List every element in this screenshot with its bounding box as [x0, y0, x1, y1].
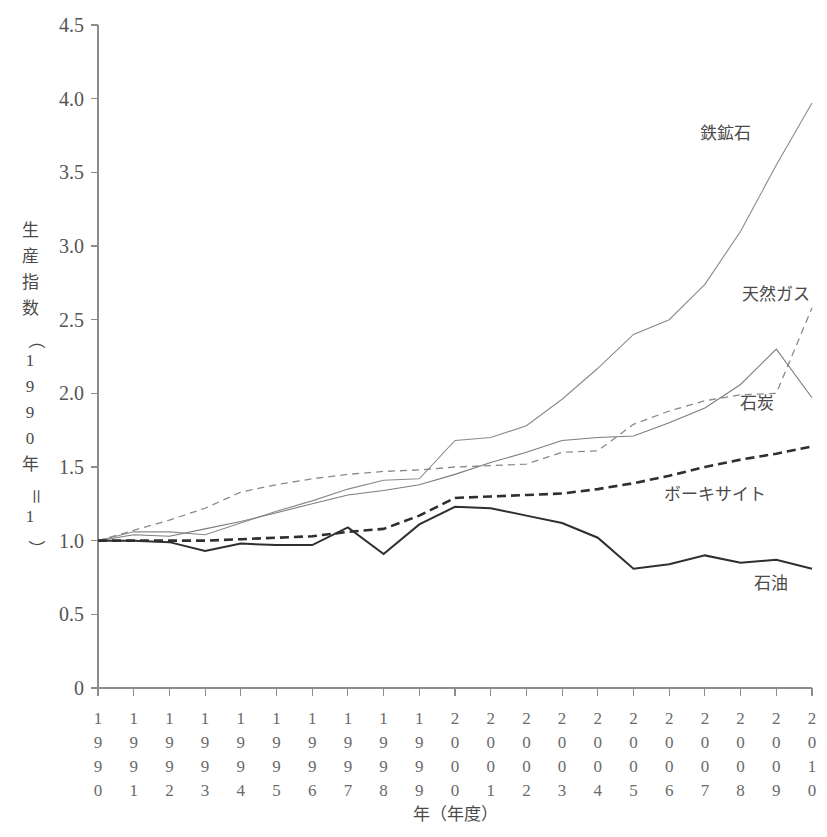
x-tick-label-digit: 0	[486, 757, 495, 776]
x-tick-label-digit: 9	[379, 757, 388, 776]
x-tick-label: 1998	[379, 709, 388, 800]
x-tick-label-digit: 0	[736, 757, 745, 776]
y-tick-label: 2.0	[59, 382, 84, 404]
y-axis-title-char: 年	[22, 455, 39, 474]
chart-figure: 00.51.01.52.02.53.03.54.04.5 19901991199…	[0, 0, 827, 837]
x-tick-label: 2003	[558, 709, 567, 800]
x-tick-label-digit: 2	[594, 709, 603, 728]
x-tick-label-digit: 0	[451, 757, 460, 776]
x-tick-label-digit: 9	[415, 781, 424, 800]
x-tick-label-digit: 9	[272, 757, 281, 776]
x-tick-label-digit: 2	[522, 781, 531, 800]
y-tick-label: 4.0	[59, 88, 84, 110]
y-axis-title-char: 数	[22, 299, 39, 318]
x-tick-label-digit: 9	[308, 757, 317, 776]
x-tick-label-digit: 9	[165, 733, 174, 752]
x-tick-label-digit: 0	[451, 733, 460, 752]
x-axis: 1990199119921993199419951996199719981999…	[94, 688, 817, 800]
x-tick-label-digit: 1	[165, 709, 174, 728]
x-tick-label-digit: 9	[129, 733, 138, 752]
x-tick-label-digit: 0	[629, 733, 638, 752]
y-axis-title-char: 産	[22, 247, 39, 266]
x-tick-label: 2006	[665, 709, 674, 800]
x-tick-label: 2004	[594, 709, 603, 800]
y-axis-title-char: ）	[26, 540, 45, 557]
x-tick-label-digit: 8	[379, 781, 388, 800]
x-tick-label-digit: 1	[415, 709, 424, 728]
series-label-0: 鉄鉱石	[700, 124, 751, 143]
y-tick-label: 3.0	[59, 235, 84, 257]
series-line-4	[98, 507, 812, 569]
x-tick-label-digit: 0	[558, 757, 567, 776]
x-tick-label-digit: 9	[237, 757, 246, 776]
x-tick-label-digit: 9	[344, 733, 353, 752]
x-tick-label-digit: 6	[665, 781, 674, 800]
x-tick-label-digit: 2	[665, 709, 674, 728]
x-tick-label-digit: 2	[165, 781, 174, 800]
x-tick-label: 2000	[451, 709, 460, 800]
x-tick-label: 1992	[165, 709, 174, 800]
y-axis-title-char: 9	[26, 403, 35, 422]
x-tick-label-digit: 9	[237, 733, 246, 752]
x-tick-label-digit: 1	[94, 709, 103, 728]
x-tick-label-digit: 8	[736, 781, 745, 800]
y-tick-label: 0.5	[59, 603, 84, 625]
x-tick-label-digit: 0	[808, 733, 817, 752]
x-tick-label-digit: 0	[94, 781, 103, 800]
x-tick-label-digit: 1	[129, 709, 138, 728]
x-tick-label: 1990	[94, 709, 103, 800]
x-tick-label-digit: 4	[594, 781, 603, 800]
series-label-1: 天然ガス	[742, 285, 810, 304]
x-tick-label-digit: 1	[379, 709, 388, 728]
y-axis-title-char: 1	[26, 507, 35, 526]
y-axis-title-char: 1	[26, 351, 35, 370]
x-tick-label-digit: 0	[808, 781, 817, 800]
x-tick-label: 2007	[701, 709, 710, 800]
x-tick-label-digit: 1	[237, 709, 246, 728]
x-tick-label-digit: 1	[486, 781, 495, 800]
x-tick-label-digit: 5	[272, 781, 281, 800]
x-tick-label-digit: 1	[344, 709, 353, 728]
y-axis-title-char: ＝	[26, 488, 45, 505]
x-tick-label-digit: 2	[701, 709, 710, 728]
series-line-1	[98, 308, 812, 541]
y-axis-title-char: 9	[26, 377, 35, 396]
x-tick-label: 2008	[736, 709, 745, 800]
y-tick-label: 3.5	[59, 161, 84, 183]
x-tick-label-digit: 1	[308, 709, 317, 728]
x-tick-label-digit: 9	[415, 733, 424, 752]
x-tick-label: 1999	[415, 709, 424, 800]
y-axis-title: 生産指数（1990年＝1）	[22, 221, 46, 557]
y-axis-title-char: 生	[22, 221, 39, 240]
x-tick-label-digit: 2	[558, 709, 567, 728]
x-tick-label-digit: 6	[308, 781, 317, 800]
y-tick-label: 2.5	[59, 309, 84, 331]
x-tick-label-digit: 0	[522, 757, 531, 776]
x-tick-label: 1993	[201, 709, 210, 800]
y-axis-title-char: （	[26, 332, 45, 349]
x-tick-label-digit: 3	[558, 781, 567, 800]
x-tick-label-digit: 0	[736, 733, 745, 752]
x-tick-label-digit: 1	[201, 709, 210, 728]
x-tick-label-digit: 3	[201, 781, 210, 800]
x-tick-label-digit: 0	[629, 757, 638, 776]
x-tick-label-digit: 4	[237, 781, 246, 800]
x-tick-label: 1996	[308, 709, 317, 800]
x-tick-label-digit: 0	[486, 733, 495, 752]
y-tick-label: 1.5	[59, 456, 84, 478]
series-label-3: ボーキサイト	[664, 485, 766, 504]
x-tick-label-digit: 0	[701, 733, 710, 752]
x-axis-title: 年（年度）	[413, 805, 498, 824]
x-tick-label-digit: 9	[94, 757, 103, 776]
x-tick-label-digit: 9	[272, 733, 281, 752]
x-tick-label-digit: 9	[344, 757, 353, 776]
x-tick-label-digit: 9	[165, 757, 174, 776]
y-axis-title-char: 指	[22, 273, 39, 292]
x-tick-label-digit: 2	[772, 709, 781, 728]
x-tick-label-digit: 9	[308, 733, 317, 752]
x-tick-label-digit: 0	[558, 733, 567, 752]
x-tick-label-digit: 1	[272, 709, 281, 728]
x-tick-label-digit: 0	[522, 733, 531, 752]
y-tick-label: 4.5	[59, 14, 84, 36]
x-tick-label-digit: 2	[736, 709, 745, 728]
